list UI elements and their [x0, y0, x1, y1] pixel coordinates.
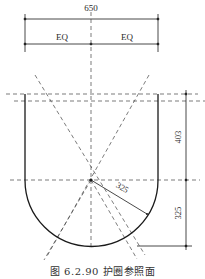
- figure-caption: 图 6.2.90 护圈参照面: [0, 263, 205, 278]
- arc-height-label: 325: [173, 207, 183, 220]
- left-half-label: EQ: [56, 32, 68, 42]
- straight-height-label: 403: [173, 131, 183, 144]
- radius-label: 325: [115, 180, 131, 195]
- overall-width-label: 650: [84, 3, 98, 13]
- overall-width-dimension: [24, 14, 159, 52]
- height-dimension: [137, 90, 192, 250]
- technical-drawing: 650 EQ EQ 325 403 325: [0, 0, 205, 279]
- section-outline: [25, 94, 158, 247]
- right-half-label: EQ: [121, 32, 133, 42]
